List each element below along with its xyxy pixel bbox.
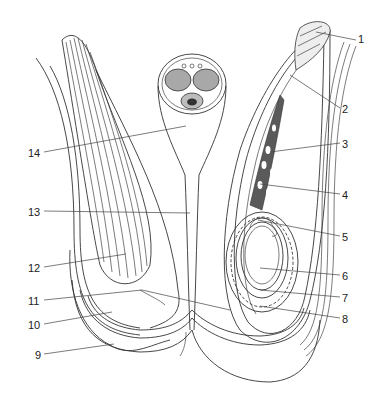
testis — [226, 212, 298, 312]
label-13: 13 — [28, 207, 40, 218]
label-8: 8 — [342, 314, 348, 325]
label-10: 10 — [28, 320, 40, 331]
label-1: 1 — [358, 34, 364, 45]
label-6: 6 — [342, 271, 348, 282]
label-4: 4 — [342, 190, 348, 201]
label-14: 14 — [28, 148, 40, 159]
label-9: 9 — [35, 350, 41, 361]
left-outer-layers — [36, 58, 170, 351]
label-11: 11 — [28, 296, 39, 307]
penis-cross-section — [158, 54, 226, 330]
label-7: 7 — [342, 293, 348, 304]
label-12: 12 — [28, 263, 40, 274]
label-3: 3 — [342, 139, 348, 150]
label-2: 2 — [342, 104, 348, 115]
diagram-canvas — [0, 0, 384, 400]
label-5: 5 — [342, 232, 348, 243]
